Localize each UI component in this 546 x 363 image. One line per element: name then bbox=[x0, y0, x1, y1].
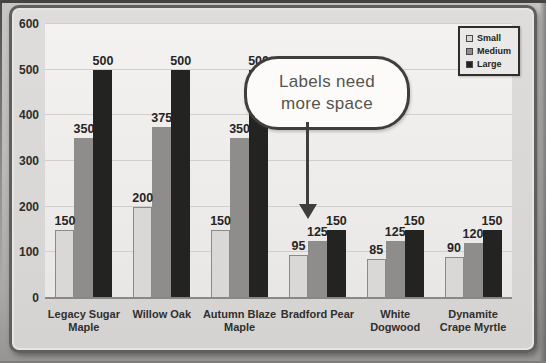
y-tick-label: 500 bbox=[19, 64, 39, 76]
x-tick-label: Autumn Blaze Maple bbox=[201, 304, 279, 344]
bar-large bbox=[405, 230, 424, 299]
chart-frame: 0100200300400500600 15035050020037550015… bbox=[9, 5, 537, 353]
x-axis: Legacy Sugar MapleWillow OakAutumn Blaze… bbox=[45, 304, 512, 344]
bar-value-label: 150 bbox=[54, 214, 75, 228]
bar-slot: 500 bbox=[171, 70, 190, 298]
bar-slot: 90 bbox=[445, 257, 464, 298]
chart-area: 0100200300400500600 15035050020037550015… bbox=[12, 8, 534, 350]
bar-value-label: 150 bbox=[482, 214, 503, 228]
legend-swatch-icon bbox=[466, 35, 473, 42]
x-tick-label: White Dogwood bbox=[356, 304, 434, 344]
bar-value-label: 500 bbox=[92, 54, 113, 68]
bar-small bbox=[133, 207, 152, 298]
bar-slot: 150 bbox=[55, 230, 74, 299]
callout-text: Labels need more space bbox=[247, 71, 407, 116]
bar-slot: 85 bbox=[367, 259, 386, 298]
y-tick-label: 100 bbox=[19, 246, 39, 258]
callout-arrow-head bbox=[299, 204, 317, 219]
bar-small bbox=[211, 230, 230, 299]
legend-item-medium: Medium bbox=[466, 46, 511, 56]
bar-slot: 125 bbox=[308, 241, 327, 298]
bar-group: 150350500 bbox=[45, 24, 123, 298]
legend-swatch-icon bbox=[466, 61, 473, 68]
bar-slot: 120 bbox=[464, 243, 483, 298]
bar-medium bbox=[230, 138, 249, 298]
callout-arrow bbox=[306, 122, 309, 206]
bar-value-label: 500 bbox=[170, 54, 191, 68]
bar-slot: 125 bbox=[386, 241, 405, 298]
legend-label: Large bbox=[477, 59, 502, 69]
legend-swatch-icon bbox=[466, 48, 473, 55]
bar-value-label: 120 bbox=[463, 227, 484, 241]
x-axis-line bbox=[45, 297, 512, 299]
callout-bubble: Labels need more space bbox=[244, 56, 410, 130]
bar-small bbox=[55, 230, 74, 299]
y-tick-label: 200 bbox=[19, 201, 39, 213]
bar-value-label: 150 bbox=[404, 214, 425, 228]
bar-slot: 150 bbox=[211, 230, 230, 299]
y-tick-label: 400 bbox=[19, 109, 39, 121]
bar-slot: 150 bbox=[405, 230, 424, 299]
bar-large bbox=[93, 70, 112, 298]
bar-group: 200375500 bbox=[123, 24, 201, 298]
bar-slot: 350 bbox=[230, 138, 249, 298]
legend: SmallMediumLarge bbox=[458, 26, 520, 76]
bar-value-label: 375 bbox=[151, 111, 172, 125]
bar-large bbox=[327, 230, 346, 299]
legend-label: Medium bbox=[477, 46, 511, 56]
bar-small bbox=[289, 255, 308, 298]
legend-item-large: Large bbox=[466, 59, 511, 69]
y-axis: 0100200300400500600 bbox=[12, 24, 41, 298]
bar-large bbox=[171, 70, 190, 298]
x-tick-label: Bradford Pear bbox=[278, 304, 356, 344]
x-tick-label: Dynamite Crape Myrtle bbox=[434, 304, 512, 344]
bar-medium bbox=[386, 241, 405, 298]
x-tick-label: Willow Oak bbox=[123, 304, 201, 344]
y-tick-label: 600 bbox=[19, 18, 39, 30]
bar-value-label: 350 bbox=[229, 122, 250, 136]
bar-slot: 200 bbox=[133, 207, 152, 298]
y-tick-label: 0 bbox=[32, 292, 39, 304]
bar-small bbox=[367, 259, 386, 298]
bar-medium bbox=[74, 138, 93, 298]
legend-label: Small bbox=[477, 33, 501, 43]
bar-medium bbox=[152, 127, 171, 298]
y-tick-label: 300 bbox=[19, 155, 39, 167]
bar-medium bbox=[464, 243, 483, 298]
legend-item-small: Small bbox=[466, 33, 511, 43]
x-tick-label: Legacy Sugar Maple bbox=[45, 304, 123, 344]
bar-slot: 95 bbox=[289, 255, 308, 298]
photo-edge-top bbox=[0, 0, 546, 3]
bar-small bbox=[445, 257, 464, 298]
bar-medium bbox=[308, 241, 327, 298]
bar-value-label: 200 bbox=[132, 191, 153, 205]
bar-slot: 150 bbox=[327, 230, 346, 299]
bar-slot: 150 bbox=[483, 230, 502, 299]
bar-slot: 375 bbox=[152, 127, 171, 298]
photo-edge-left bbox=[0, 0, 2, 283]
bar-value-label: 150 bbox=[210, 214, 231, 228]
bar-value-label: 85 bbox=[369, 243, 383, 257]
bar-value-label: 95 bbox=[291, 239, 305, 253]
bar-value-label: 90 bbox=[447, 241, 461, 255]
bar-value-label: 350 bbox=[73, 122, 94, 136]
bar-slot: 350 bbox=[74, 138, 93, 298]
bar-value-label: 125 bbox=[385, 225, 406, 239]
bar-large bbox=[483, 230, 502, 299]
photo-edge-right bbox=[539, 0, 546, 363]
bar-slot: 500 bbox=[93, 70, 112, 298]
bar-value-label: 150 bbox=[326, 214, 347, 228]
bar-value-label: 125 bbox=[307, 225, 328, 239]
